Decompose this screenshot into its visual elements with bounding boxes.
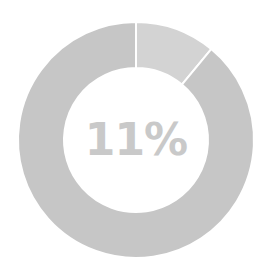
center-percentage-label: 11% xyxy=(85,114,187,165)
